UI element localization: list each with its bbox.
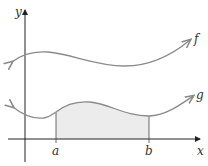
a-label: a [52, 144, 59, 158]
curve-f [12, 40, 190, 66]
b-label: b [145, 144, 153, 158]
curve-g-label: g [196, 88, 204, 102]
x-axis-label: x [197, 144, 204, 158]
shaded-region [56, 102, 149, 139]
curve-f-label: f [193, 32, 201, 46]
y-axis-label: y [14, 5, 22, 19]
area-under-curve-diagram: y x f g a b [0, 0, 208, 166]
